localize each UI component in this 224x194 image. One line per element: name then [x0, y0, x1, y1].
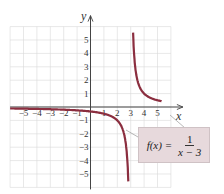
denominator: x − 3 [178, 146, 201, 158]
axes [10, 16, 183, 190]
x-tick-label: 5 [155, 108, 160, 118]
function-lhs: f(x) = [147, 139, 172, 151]
x-axis-label: x [175, 109, 182, 123]
curve-left-branch [10, 109, 128, 182]
function-label: f(x) = 1 x − 3 [138, 127, 210, 163]
y-tick-label: −3 [79, 142, 89, 152]
y-tick-label: 3 [84, 62, 89, 72]
y-tick-label: 5 [84, 35, 89, 45]
y-tick-label: 4 [84, 48, 89, 58]
y-tick-label: −2 [79, 129, 89, 139]
function-graph: −5−4−3−2−112345−5−4−3−2−112345 y x [0, 0, 224, 194]
y-tick-label: −1 [79, 115, 89, 125]
y-tick-label: −5 [79, 169, 89, 179]
y-axis-label: y [80, 9, 87, 23]
y-tick-label: 1 [84, 89, 89, 99]
fraction: 1 x − 3 [178, 133, 201, 158]
y-tick-label: −4 [79, 156, 89, 166]
x-tick-label: 4 [142, 108, 147, 118]
x-tick-label: 3 [128, 108, 133, 118]
x-tick-label: 2 [115, 108, 120, 118]
numerator: 1 [185, 133, 195, 146]
y-tick-label: 2 [84, 75, 89, 85]
